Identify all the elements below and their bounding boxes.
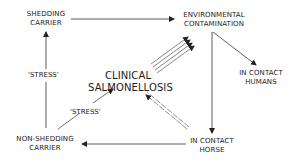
node-nonshedding-line1: NON-SHEDDING: [12, 135, 78, 144]
node-clinical-salmonellosis: CLINICAL SALMONELLOSIS: [88, 70, 168, 94]
node-env-line1: ENVIRONMENTAL: [176, 11, 252, 20]
node-non-shedding-carrier: NON-SHEDDING CARRIER: [12, 135, 78, 153]
node-environmental-contamination: ENVIRONMENTAL CONTAMINATION: [176, 11, 252, 29]
node-in-contact-horse: IN CONTACT HORSE: [187, 137, 237, 155]
node-shedding-carrier-line2: CARRIER: [22, 19, 70, 28]
edge-clinical-to-env: [151, 37, 194, 73]
node-horse-line1: IN CONTACT: [187, 137, 237, 146]
node-clinical-line1: CLINICAL: [88, 70, 168, 82]
node-shedding-carrier-line1: SHEDDING: [22, 10, 70, 19]
edge-env-to-humans: [213, 32, 256, 65]
node-clinical-line2: SALMONELLOSIS: [88, 82, 168, 94]
node-nonshedding-line2: CARRIER: [12, 144, 78, 153]
node-humans-line2: HUMANS: [236, 78, 286, 87]
label-stress-diagonal: 'STRESS': [70, 108, 101, 117]
node-shedding-carrier: SHEDDING CARRIER: [22, 10, 70, 28]
node-in-contact-humans: IN CONTACT HUMANS: [236, 69, 286, 87]
node-humans-line1: IN CONTACT: [236, 69, 286, 78]
node-env-line2: CONTAMINATION: [176, 20, 252, 29]
edge-horse-to-clinical: [146, 92, 189, 129]
node-horse-line2: HORSE: [187, 146, 237, 155]
label-stress-left: 'STRESS': [28, 71, 59, 80]
